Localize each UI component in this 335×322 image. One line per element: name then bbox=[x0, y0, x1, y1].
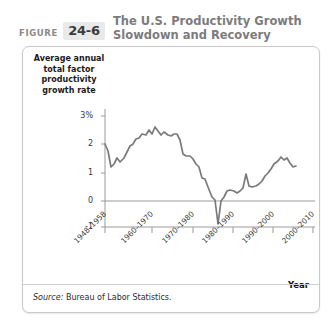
figure-root: FIGURE 24-6 The U.S. Productivity Growth… bbox=[0, 0, 335, 322]
figure-header: FIGURE 24-6 The U.S. Productivity Growth… bbox=[0, 6, 335, 46]
y-tick-label-3: 3% bbox=[69, 111, 93, 120]
footer-divider bbox=[23, 284, 320, 285]
x-axis-title: Year bbox=[288, 280, 309, 290]
figure-card: Average annual total factor productivity… bbox=[22, 46, 320, 313]
source-text: Bureau of Labor Statistics. bbox=[66, 293, 172, 302]
line-chart-svg bbox=[23, 47, 320, 313]
chart-plot-area bbox=[23, 47, 320, 313]
figure-title: The U.S. Productivity Growth Slowdown an… bbox=[113, 14, 328, 42]
figure-word-label: FIGURE bbox=[19, 28, 58, 38]
source-note: Source: Bureau of Labor Statistics. bbox=[33, 293, 172, 302]
y-tick-label-1: 1 bbox=[69, 168, 93, 177]
y-tick-label-2: 2 bbox=[69, 139, 93, 148]
source-prefix: Source: bbox=[33, 293, 63, 302]
figure-number-badge: 24-6 bbox=[63, 22, 105, 40]
y-tick-label-0: 0 bbox=[69, 196, 93, 205]
productivity-growth-line bbox=[105, 127, 296, 224]
